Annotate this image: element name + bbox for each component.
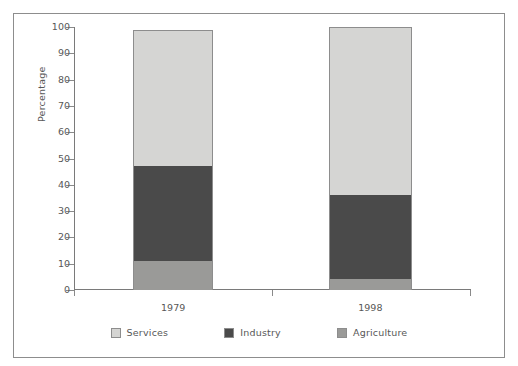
legend-label-services: Services [127, 327, 169, 338]
chart-legend: ServicesIndustryAgriculture [14, 327, 504, 338]
bar-segment-1979-services[interactable] [133, 30, 213, 167]
legend-label-agriculture: Agriculture [353, 327, 407, 338]
bar-segment-1998-services[interactable] [329, 27, 412, 195]
x-tick-mark-2 [470, 290, 471, 296]
legend-item-services[interactable]: Services [111, 327, 169, 338]
plot-area: 0102030405060708090100 19791998 [74, 27, 471, 290]
y-tick-label: 90 [58, 46, 70, 59]
y-axis-title: Percentage [36, 67, 47, 122]
x-tick-mark-0 [74, 290, 75, 296]
y-tick-label: 80 [58, 73, 70, 86]
y-tick-label: 100 [52, 20, 70, 33]
legend-swatch-services [111, 328, 121, 338]
legend-swatch-industry [224, 328, 234, 338]
legend-label-industry: Industry [240, 327, 281, 338]
y-tick-label: 30 [58, 204, 70, 217]
y-tick-label: 60 [58, 125, 70, 138]
y-tick-label: 10 [58, 257, 70, 270]
legend-swatch-agriculture [337, 328, 347, 338]
y-tick-label: 40 [58, 178, 70, 191]
bar-segment-1998-industry[interactable] [329, 195, 412, 279]
y-tick-label: 50 [58, 152, 70, 165]
y-axis-line [74, 27, 75, 290]
bar-stack-1979[interactable]: 1979 [133, 27, 213, 290]
x-tick-mark-1 [272, 290, 273, 296]
x-category-label-1979: 1979 [113, 302, 233, 313]
bar-segment-1998-agriculture[interactable] [329, 279, 412, 290]
y-tick-label: 20 [58, 230, 70, 243]
legend-item-industry[interactable]: Industry [224, 327, 281, 338]
bar-segment-1979-agriculture[interactable] [133, 261, 213, 290]
chart-figure-frame: Percentage 0102030405060708090100 197919… [13, 13, 505, 358]
x-category-label-1998: 1998 [310, 302, 430, 313]
bar-stack-1998[interactable]: 1998 [329, 27, 412, 290]
y-tick-label: 0 [64, 283, 70, 296]
bar-segment-1979-industry[interactable] [133, 166, 213, 261]
y-tick-label: 70 [58, 99, 70, 112]
scan-top-artifact [0, 0, 518, 9]
legend-item-agriculture[interactable]: Agriculture [337, 327, 407, 338]
